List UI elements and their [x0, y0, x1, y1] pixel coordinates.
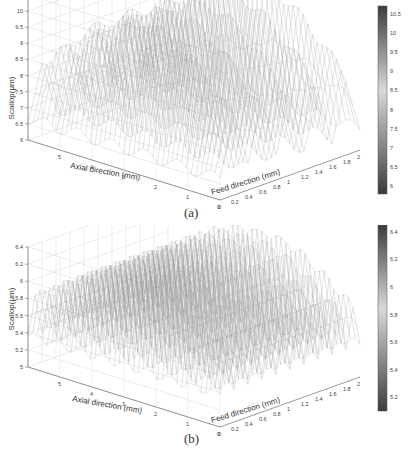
- y-axis-line: [220, 377, 360, 427]
- z-tick-label: 6: [20, 278, 23, 284]
- y-tick-label: 1.2: [301, 174, 309, 180]
- y-tick-label: 2: [357, 381, 360, 387]
- y-tick-label: 0.6: [259, 189, 267, 195]
- x-tick-label: 5: [58, 154, 61, 160]
- surface-plot-b: 01234500.20.40.60.811.21.41.61.8255.25.4…: [0, 225, 408, 454]
- chart-panel-b: 01234500.20.40.60.811.21.41.61.8255.25.4…: [0, 225, 408, 454]
- z-tick-label: 8.5: [15, 56, 23, 62]
- z-tick-label: 5.8: [15, 295, 23, 301]
- y-tick-label: 0.8: [273, 184, 281, 190]
- x-tick-label: 2: [154, 184, 157, 190]
- colorbar-tick-label: 7: [390, 145, 393, 151]
- y-tick-label: 1.8: [343, 159, 351, 165]
- x-axis-label: Axial direction (mm): [72, 394, 143, 415]
- surface-plot-a: 01234500.20.40.60.811.21.41.61.8266.577.…: [0, 0, 408, 225]
- y-tick-label: 1.8: [343, 386, 351, 392]
- y-tick-label: 0.8: [273, 411, 281, 417]
- z-tick-label: 6.2: [15, 261, 23, 267]
- colorbar-tick-label: 5.8: [390, 312, 398, 318]
- colorbar-tick-label: 5.6: [390, 339, 398, 345]
- y-tick-label: 1.2: [301, 401, 309, 407]
- z-tick-label: 9: [20, 40, 23, 46]
- x-tick-label: 4: [90, 391, 93, 397]
- z-tick-label: 6.4: [15, 244, 23, 250]
- y-tick-label: 0.4: [245, 194, 253, 200]
- z-tick-label: 5.6: [15, 313, 23, 319]
- colorbar-tick-label: 8.5: [390, 87, 398, 93]
- colorbar-tick-label: 5.2: [390, 394, 398, 400]
- y-tick-label: 2: [357, 154, 360, 160]
- colorbar-tick-label: 5.4: [390, 367, 398, 373]
- colorbar-tick-label: 6.4: [390, 229, 398, 235]
- z-axis-label: Scallop(μm): [7, 76, 16, 119]
- z-tick-label: 5.4: [15, 330, 23, 336]
- colorbar-tick-label: 6: [390, 183, 393, 189]
- y-tick-label: 0: [217, 431, 220, 437]
- z-tick-label: 7: [20, 105, 23, 111]
- y-tick-label: 1.6: [329, 391, 337, 397]
- y-tick-label: 1.4: [315, 169, 323, 175]
- y-tick-label: 0.4: [245, 421, 253, 427]
- x-tick-label: 1: [186, 194, 189, 200]
- z-tick-label: 7.5: [15, 89, 23, 95]
- colorbar-tick-label: 9.5: [390, 49, 398, 55]
- colorbar-tick-label: 6.2: [390, 256, 398, 262]
- colorbar-tick-label: 10.5: [390, 11, 401, 17]
- z-tick-label: 6.5: [15, 121, 23, 127]
- y-tick-label: 1: [287, 179, 290, 185]
- colorbar-tick-label: 9: [390, 68, 393, 74]
- colorbar-gradient: [378, 225, 387, 411]
- y-tick-label: 0.2: [231, 199, 239, 205]
- caption-b: (b): [184, 431, 199, 447]
- surface-mesh: [28, 225, 360, 394]
- z-tick-label: 5: [20, 364, 23, 370]
- z-tick-label: 6: [20, 137, 23, 143]
- y-tick-label: 0: [217, 204, 220, 210]
- colorbar-gradient: [378, 6, 387, 194]
- y-tick-label: 1: [287, 406, 290, 412]
- colorbar: 66.577.588.599.51010.5: [378, 6, 401, 194]
- x-tick-label: 5: [58, 381, 61, 387]
- colorbar: 5.25.45.65.866.26.4: [378, 225, 398, 411]
- x-tick-label: 2: [154, 411, 157, 417]
- y-tick-label: 1.4: [315, 396, 323, 402]
- caption-a: (a): [184, 205, 198, 221]
- z-tick-label: 5.2: [15, 347, 23, 353]
- z-tick-label: 9.5: [15, 24, 23, 30]
- y-tick-label: 0.6: [259, 416, 267, 422]
- x-tick-label: 1: [186, 421, 189, 427]
- colorbar-tick-label: 10: [390, 30, 396, 36]
- colorbar-tick-label: 8: [390, 107, 393, 113]
- y-axis-line: [220, 150, 360, 200]
- colorbar-tick-label: 7.5: [390, 126, 398, 132]
- z-tick-label: 8: [20, 73, 23, 79]
- colorbar-tick-label: 6: [390, 284, 393, 290]
- y-tick-label: 0.2: [231, 426, 239, 432]
- z-tick-label: 10: [17, 8, 23, 14]
- colorbar-tick-label: 6.5: [390, 164, 398, 170]
- y-tick-label: 1.6: [329, 164, 337, 170]
- chart-panel-a: 01234500.20.40.60.811.21.41.61.8266.577.…: [0, 0, 408, 225]
- z-axis-label: Scallop(μm): [7, 287, 16, 330]
